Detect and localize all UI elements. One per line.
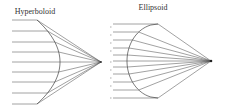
hyperboloid-rays — [12, 20, 101, 104]
reflected-ray — [47, 31, 101, 62]
reflected-ray — [37, 62, 101, 104]
ellipsoid-diagram: Ellipsoid — [113, 3, 212, 98]
reflected-ray — [59, 62, 101, 72]
ellipsoid-rays — [113, 24, 211, 98]
hyperboloid-title: Hyperboloid — [15, 7, 55, 16]
ellipsoid-title: Ellipsoid — [139, 3, 168, 12]
reflected-ray — [59, 52, 101, 62]
reflected-ray — [55, 62, 101, 82]
hyperboloid-tick-marks — [110, 27, 112, 98]
hyperboloid-diagram: Hyperboloid — [12, 7, 112, 104]
reflected-ray — [37, 20, 101, 62]
hyperboloid-focus-point — [100, 61, 102, 63]
reflected-ray — [158, 24, 211, 61]
reflected-ray — [47, 62, 101, 93]
reflected-ray — [55, 42, 101, 62]
ellipsoid-focus-point — [210, 60, 213, 63]
reflected-ray — [158, 61, 211, 98]
diagram-canvas: Hyperboloid Ellipsoid — [0, 0, 226, 111]
